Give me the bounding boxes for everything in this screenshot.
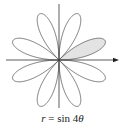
equation-caption: r = sin 4θ bbox=[0, 112, 125, 124]
x-axis-arrowhead-icon bbox=[113, 58, 119, 62]
caption-func: sin 4 bbox=[57, 112, 78, 124]
caption-theta: θ bbox=[78, 112, 83, 124]
shaded-petal bbox=[59, 38, 105, 60]
polar-rose-plot bbox=[0, 0, 125, 112]
caption-equals: = bbox=[46, 112, 58, 124]
